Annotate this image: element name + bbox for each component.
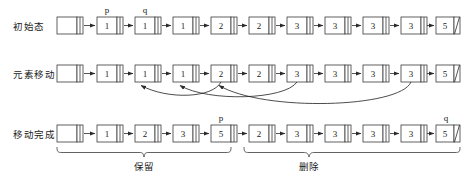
list-node: 2 [249, 125, 275, 142]
node-value: 3 [371, 129, 376, 139]
node-value: 3 [409, 129, 414, 139]
row-label-initial: 初始态 [13, 21, 45, 32]
node-value: 5 [443, 21, 448, 31]
node-value: 2 [219, 21, 224, 31]
list-node: 3 [173, 125, 199, 142]
row-element-move: 元素移动 1 1 1 [13, 65, 460, 104]
list-node: 1 [97, 65, 123, 82]
row-move-complete: 移动完成 1 2 3 [13, 113, 460, 172]
node-value: 3 [371, 69, 376, 79]
node-value: 2 [257, 129, 262, 139]
list-node: 2 [211, 17, 237, 34]
brace-label-delete: 删除 [299, 161, 319, 172]
pointer-label-q: q [444, 113, 449, 123]
list-node: 2 [211, 65, 237, 82]
node-value: 3 [333, 21, 338, 31]
list-node: 2 [135, 125, 161, 142]
list-node: 3 [325, 65, 351, 82]
list-node: 1 [173, 17, 199, 34]
list-node: 2 [249, 17, 275, 34]
move-arc [219, 82, 411, 104]
row-label-move: 元素移动 [13, 69, 55, 80]
node-value: 1 [143, 69, 148, 79]
node-value: 3 [333, 69, 338, 79]
list-node: 3 [363, 125, 389, 142]
node-value: 3 [295, 69, 300, 79]
list-node: 3 [363, 17, 389, 34]
node-value: 2 [257, 69, 262, 79]
list-node: 5 [211, 125, 237, 142]
list-node: 3 [401, 65, 427, 82]
list-node: 2 [249, 65, 275, 82]
list-node: 5 [436, 17, 460, 34]
list-node: 1 [173, 65, 199, 82]
brace-keep: 保留 [57, 147, 231, 172]
move-arc [141, 82, 221, 95]
node-value: 3 [181, 129, 186, 139]
head-node [57, 17, 83, 34]
node-value: 2 [219, 69, 224, 79]
pointer-label-q: q [143, 5, 148, 15]
node-value: 1 [105, 69, 110, 79]
list-node: 3 [401, 17, 427, 34]
node-value: 1 [105, 129, 110, 139]
linked-list-diagram: 初始态 1 p 1 q 1 [0, 0, 462, 177]
row-label-complete: 移动完成 [13, 129, 55, 140]
row-initial-state: 初始态 1 p 1 q 1 [13, 5, 460, 34]
list-node: 3 [287, 125, 313, 142]
pointer-label-p: p [219, 113, 224, 123]
node-value: 5 [219, 129, 224, 139]
node-value: 3 [409, 69, 414, 79]
node-value: 3 [295, 21, 300, 31]
list-node: 1 [97, 125, 123, 142]
brace-delete: 删除 [244, 147, 460, 172]
node-value: 1 [181, 21, 186, 31]
list-node: 3 [363, 65, 389, 82]
node-value: 1 [143, 21, 148, 31]
node-value: 2 [257, 21, 262, 31]
pointer-label-p: p [105, 5, 110, 15]
list-node: 1 [135, 65, 161, 82]
list-node: 5 [436, 125, 460, 142]
list-node: 3 [287, 17, 313, 34]
list-node: 3 [325, 17, 351, 34]
node-value: 3 [409, 21, 414, 31]
list-node: 1 [97, 17, 123, 34]
node-value: 1 [181, 69, 186, 79]
list-node: 5 [436, 65, 460, 82]
node-value: 3 [371, 21, 376, 31]
list-node: 3 [325, 125, 351, 142]
head-node [57, 125, 83, 142]
node-value: 3 [295, 129, 300, 139]
node-value: 1 [105, 21, 110, 31]
list-node: 1 [135, 17, 161, 34]
node-value: 5 [443, 69, 448, 79]
list-node: 3 [401, 125, 427, 142]
node-value: 2 [143, 129, 148, 139]
node-value: 5 [443, 129, 448, 139]
list-node: 3 [287, 65, 313, 82]
head-node [57, 65, 83, 82]
brace-label-keep: 保留 [134, 161, 154, 172]
node-value: 3 [333, 129, 338, 139]
